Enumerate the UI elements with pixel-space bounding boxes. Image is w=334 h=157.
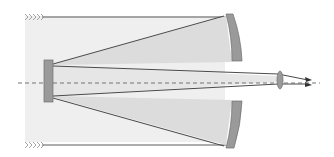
chevron-arrows-icon — [25, 142, 44, 148]
telescope-diagram — [0, 0, 334, 157]
arrowhead-icon — [305, 77, 312, 82]
eyepiece-lens — [277, 71, 283, 89]
secondary-mirror — [44, 60, 53, 102]
